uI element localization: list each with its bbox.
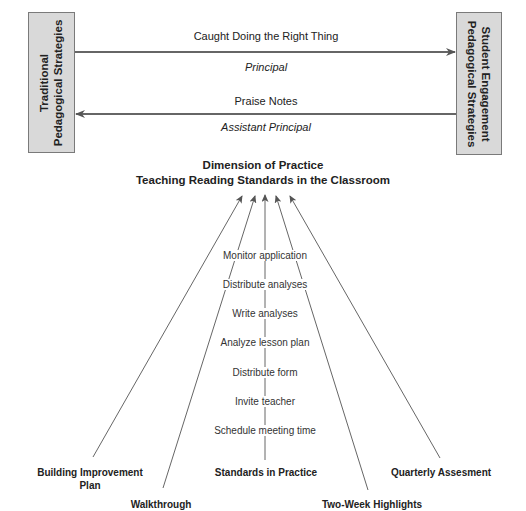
student-engagement-strategies-box: Student Engagement Pedagogical Strategie… xyxy=(456,12,502,155)
arrow-building-improvement xyxy=(93,196,242,457)
traditional-strategies-box: Traditional Pedagogical Strategies xyxy=(28,12,75,153)
source-building-improvement-plan: Building Improvement Plan xyxy=(37,466,143,492)
arrow-quarterly xyxy=(290,196,440,458)
source-building-line1: Building Improvement xyxy=(37,466,143,479)
top-arrow-label: Caught Doing the Right Thing xyxy=(194,30,339,42)
box-left-line1: Traditional xyxy=(38,19,52,146)
box-right-line1: Student Engagement xyxy=(479,20,493,147)
step-distribute-analyses: Distribute analyses xyxy=(221,279,309,290)
source-quarterly-assessment: Quarterly Assesment xyxy=(391,466,491,479)
source-walkthrough: Walkthrough xyxy=(131,498,192,511)
step-monitor-application: Monitor application xyxy=(221,250,309,261)
source-building-line2: Plan xyxy=(37,479,143,492)
bottom-arrow-label: Praise Notes xyxy=(235,95,298,107)
step-analyze-lesson-plan: Analyze lesson plan xyxy=(219,337,312,348)
box-left-line2: Pedagogical Strategies xyxy=(52,19,66,146)
dimension-title: Dimension of Practice xyxy=(203,159,324,171)
step-schedule-meeting-time: Schedule meeting time xyxy=(212,425,318,436)
source-two-week-highlights: Two-Week Highlights xyxy=(322,498,422,511)
box-right-line2: Pedagogical Strategies xyxy=(465,20,479,147)
step-write-analyses: Write analyses xyxy=(230,308,299,319)
top-arrow-actor: Principal xyxy=(245,61,287,73)
step-invite-teacher: Invite teacher xyxy=(233,396,297,407)
dimension-subtitle: Teaching Reading Standards in the Classr… xyxy=(136,174,390,186)
step-distribute-form: Distribute form xyxy=(230,367,299,378)
bottom-arrow-actor: Assistant Principal xyxy=(221,121,311,133)
source-standards-in-practice: Standards in Practice xyxy=(215,466,317,479)
